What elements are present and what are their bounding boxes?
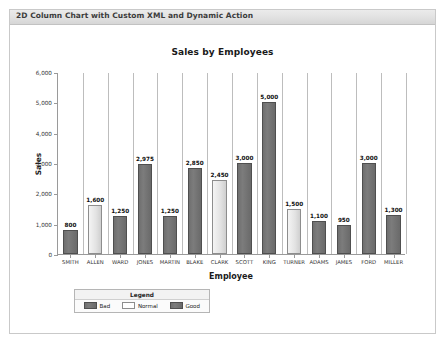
bar[interactable]	[188, 168, 202, 254]
gridline-vertical	[182, 73, 183, 254]
y-axis-tick-label: 2,000	[16, 191, 52, 197]
bar-column[interactable]: 1,500	[287, 73, 301, 254]
gridline-vertical	[356, 73, 357, 254]
x-axis-tick-label: JAMES	[336, 259, 352, 265]
y-axis-tick-label: 1,000	[16, 222, 52, 228]
plot-wrapper: Sales 01,0002,0003,0004,0005,0006,000 80…	[10, 25, 437, 333]
x-axis-tick-label: FORD	[361, 259, 376, 265]
x-axis-tick-label: SMITH	[62, 259, 79, 265]
gridline-vertical	[157, 73, 158, 254]
bar-column[interactable]: 1,300	[386, 73, 400, 254]
bar-column[interactable]: 1,250	[113, 73, 127, 254]
bar-value-label: 800	[64, 222, 76, 228]
x-axis-tick-mark	[120, 255, 121, 258]
bar-value-label: 1,300	[385, 207, 403, 213]
bar[interactable]	[386, 215, 400, 254]
legend-title: Legend	[75, 290, 209, 300]
y-axis-tick-mark	[54, 103, 58, 104]
x-axis-tick-mark	[195, 255, 196, 258]
bar[interactable]	[63, 230, 77, 254]
bar-column[interactable]: 2,450	[212, 73, 226, 254]
bar[interactable]	[138, 164, 152, 254]
y-axis-tick-mark	[54, 194, 58, 195]
x-axis-tick-mark	[394, 255, 395, 258]
x-axis-tick-mark	[70, 255, 71, 258]
y-axis-tick-mark	[54, 255, 58, 256]
bar-value-label: 1,600	[86, 197, 104, 203]
x-axis-tick-label: WARD	[112, 259, 128, 265]
plot-area: Sales 01,0002,0003,0004,0005,0006,000 80…	[57, 73, 405, 255]
bar[interactable]	[362, 163, 376, 254]
x-axis-tick-label: SCOTT	[236, 259, 254, 265]
region-header: 2D Column Chart with Custom XML and Dyna…	[10, 10, 435, 25]
x-axis-tick-label: ALLEN	[87, 259, 104, 265]
legend-item-label: Bad	[100, 303, 111, 309]
y-axis-tick-mark	[54, 164, 58, 165]
gridline-vertical	[406, 73, 407, 254]
y-axis-tick-label: 6,000	[16, 70, 52, 76]
bar[interactable]	[237, 163, 251, 254]
x-axis-tick-mark	[170, 255, 171, 258]
gridline-vertical	[257, 73, 258, 254]
x-axis-tick-mark	[145, 255, 146, 258]
gridline-vertical	[282, 73, 283, 254]
x-axis-tick-mark	[269, 255, 270, 258]
x-axis-tick-label: BLAKE	[186, 259, 203, 265]
legend-item[interactable]: Good	[170, 302, 200, 309]
legend-items: BadNormalGood	[75, 300, 209, 313]
bar[interactable]	[212, 180, 226, 254]
y-axis-tick-label: 5,000	[16, 100, 52, 106]
bar[interactable]	[287, 209, 301, 255]
y-axis-tick-label: 3,000	[16, 161, 52, 167]
bar[interactable]	[163, 216, 177, 254]
bar-column[interactable]: 3,000	[362, 73, 376, 254]
bar-value-label: 950	[338, 217, 350, 223]
bar-value-label: 2,975	[136, 156, 154, 162]
bar-column[interactable]: 2,975	[138, 73, 152, 254]
bar-value-label: 2,450	[211, 172, 229, 178]
bar-column[interactable]: 950	[337, 73, 351, 254]
y-axis-tick-mark	[54, 134, 58, 135]
legend-swatch-icon	[122, 302, 135, 309]
bar-column[interactable]: 5,000	[262, 73, 276, 254]
x-axis-tick-mark	[220, 255, 221, 258]
bar[interactable]	[312, 221, 326, 254]
bar[interactable]	[88, 205, 102, 254]
gridline-vertical	[207, 73, 208, 254]
y-axis-tick-mark	[54, 225, 58, 226]
x-axis-tick-label: KING	[263, 259, 276, 265]
gridline-vertical	[381, 73, 382, 254]
gridline-vertical	[83, 73, 84, 254]
x-axis-tick-label: TURNER	[283, 259, 305, 265]
bar-column[interactable]: 1,100	[312, 73, 326, 254]
bar-column[interactable]: 2,850	[188, 73, 202, 254]
region-title: 2D Column Chart with Custom XML and Dyna…	[16, 11, 253, 20]
legend-item[interactable]: Normal	[122, 302, 157, 309]
bar-column[interactable]: 3,000	[237, 73, 251, 254]
x-axis-tick-mark	[244, 255, 245, 258]
gridline-vertical	[133, 73, 134, 254]
legend-item[interactable]: Bad	[84, 302, 110, 309]
x-axis-tick-mark	[95, 255, 96, 258]
x-axis-tick-mark	[294, 255, 295, 258]
bar[interactable]	[337, 225, 351, 254]
bar-column[interactable]: 1,250	[163, 73, 177, 254]
y-axis-tick-label: 0	[16, 252, 52, 258]
bar-value-label: 1,250	[161, 208, 179, 214]
chart-legend: Legend BadNormalGood	[74, 289, 210, 313]
bar[interactable]	[262, 102, 276, 254]
x-axis-tick-mark	[319, 255, 320, 258]
bar-column[interactable]: 800	[63, 73, 77, 254]
gridline-vertical	[108, 73, 109, 254]
legend-item-label: Good	[185, 303, 199, 309]
chart-body: Sales by Employees Sales 01,0002,0003,00…	[10, 25, 435, 333]
bar-column[interactable]: 1,600	[88, 73, 102, 254]
x-axis-tick-label: CLARK	[211, 259, 229, 265]
gridline-vertical	[307, 73, 308, 254]
bar-value-label: 3,000	[360, 155, 378, 161]
x-axis-title: Employee	[57, 272, 405, 281]
screenshot-root: 2D Column Chart with Custom XML and Dyna…	[0, 0, 445, 342]
legend-swatch-icon	[170, 302, 183, 309]
y-axis-tick-label: 4,000	[16, 131, 52, 137]
bar[interactable]	[113, 216, 127, 254]
